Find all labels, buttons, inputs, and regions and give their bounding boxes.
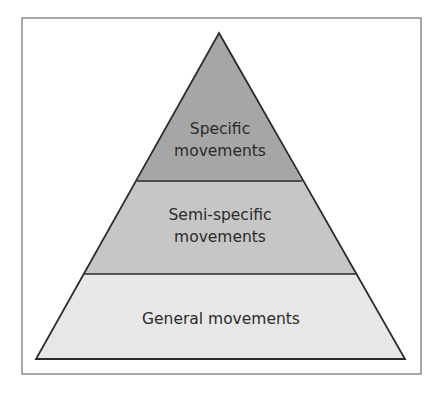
tier-middle-label-line2: movements bbox=[174, 228, 266, 246]
pyramid-diagram: Specific movements Semi-specific movemen… bbox=[0, 0, 445, 395]
tier-top-label-line2: movements bbox=[174, 142, 266, 160]
tier-top-label-line1: Specific bbox=[190, 120, 250, 138]
tier-middle-label-line1: Semi-specific bbox=[169, 206, 272, 224]
tier-bottom-label: General movements bbox=[142, 310, 300, 328]
